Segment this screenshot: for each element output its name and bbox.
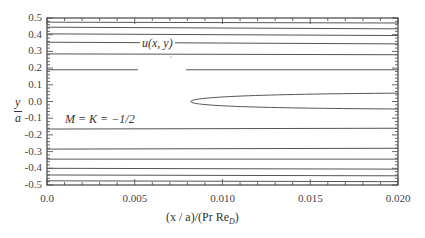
- y-tick-label: 0.3: [6, 44, 42, 56]
- contour-line: [47, 181, 398, 182]
- x-tick-label: 0.0: [27, 192, 67, 204]
- contour-line: [47, 22, 398, 23]
- contour-line-closed: [191, 93, 398, 109]
- contour-line: [47, 148, 398, 149]
- contour-line: [47, 168, 398, 169]
- y-axis-title-denominator: a: [15, 111, 21, 126]
- annotation-m-k: M = K = −1/2: [63, 112, 137, 127]
- x-tick-label: 0.015: [290, 192, 330, 204]
- y-tick-label: -0.4: [6, 161, 42, 173]
- contour-line: [47, 42, 398, 44]
- y-tick-label: -0.1: [6, 111, 42, 123]
- x-axis-title: (x / a)/(Pr ReD): [166, 210, 239, 226]
- x-axis-title-close: ): [235, 210, 239, 224]
- y-tick-label: 0.5: [6, 11, 42, 23]
- x-axis-title-text: (x / a)/(Pr Re: [166, 210, 229, 224]
- contour-line: [47, 175, 398, 176]
- y-tick-label: -0.3: [6, 145, 42, 157]
- annotation-u-xy: u(x, y): [140, 36, 175, 51]
- contour-line: [47, 54, 398, 55]
- y-tick-label: 0.1: [6, 78, 42, 90]
- x-tick-label: 0.005: [115, 192, 155, 204]
- y-tick-label: 0.2: [6, 61, 42, 73]
- x-tick-label: 0.010: [203, 192, 243, 204]
- contour-line: [47, 128, 398, 129]
- contour-line: [47, 34, 398, 36]
- x-tick-label: 0.020: [378, 192, 418, 204]
- contour-line: [47, 27, 398, 29]
- y-tick-label: 0.4: [6, 28, 42, 40]
- annotation-pointer-dot: [170, 56, 171, 57]
- y-tick-label: -0.5: [6, 178, 42, 190]
- y-tick-label: 0.0: [6, 95, 42, 107]
- y-axis-title-numerator: y: [15, 95, 20, 110]
- y-tick-label: -0.2: [6, 128, 42, 140]
